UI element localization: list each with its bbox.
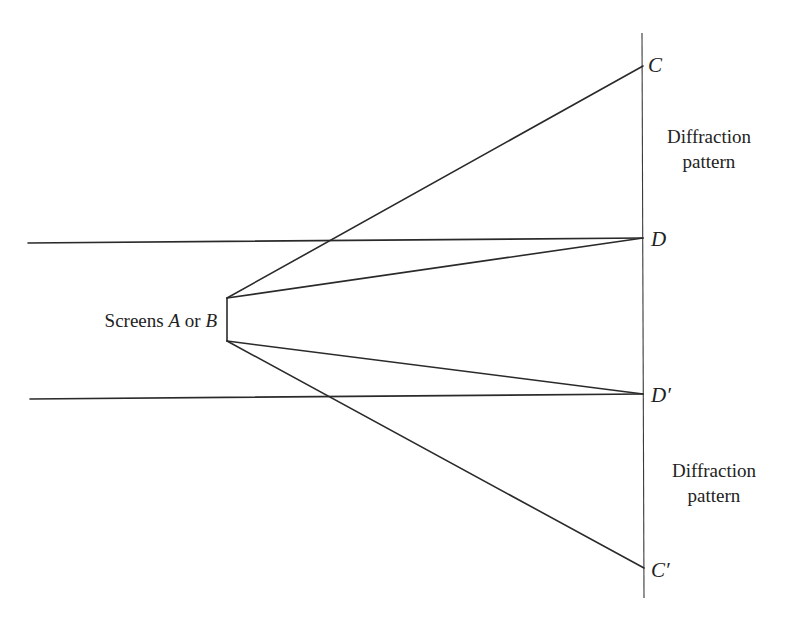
point-label-C: C (648, 53, 663, 77)
upper-pattern-label-line2: pattern (683, 151, 736, 172)
lower-pattern-label-line1: Diffraction (672, 460, 757, 481)
screens-label: Screens A or B (105, 310, 218, 331)
point-label-D-prime: D′ (650, 383, 671, 407)
incident-ray-bottom (30, 394, 643, 399)
screens-label-or: or (180, 310, 205, 331)
ray-to-D (227, 238, 643, 298)
point-label-C-prime: C′ (651, 558, 670, 582)
upper-pattern-label-line1: Diffraction (667, 126, 752, 147)
observation-screen-line (642, 33, 644, 598)
incident-ray-top (28, 238, 643, 243)
ray-to-C (227, 66, 643, 298)
lower-pattern-label-line2: pattern (688, 485, 741, 506)
diffraction-diagram: C D D′ C′ Diffraction pattern Diffractio… (0, 0, 798, 622)
screens-label-a: A (166, 310, 180, 331)
ray-to-D-prime (227, 341, 643, 394)
screens-label-b: B (205, 310, 217, 331)
screens-label-prefix: Screens (105, 310, 169, 331)
ray-to-C-prime (227, 341, 644, 568)
point-label-D: D (650, 227, 666, 251)
